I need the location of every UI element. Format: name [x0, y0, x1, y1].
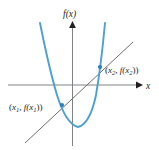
point-1-label: (x1, f(x1)): [9, 102, 43, 113]
point-1-close-parens: )): [37, 102, 43, 112]
x-axis: [8, 82, 143, 89]
point-2-f-var: f(x: [120, 65, 130, 75]
intersection-point-2: [98, 65, 102, 69]
y-axis: [69, 21, 76, 146]
function-graph-figure: f(x) x (x1, f(x1)) (x2, f(x2)): [0, 0, 159, 150]
y-axis-arrowhead: [69, 21, 76, 28]
point-2-close-parens: )): [133, 65, 139, 75]
point-1-f-var: f(x: [24, 102, 34, 112]
secant-line: [25, 42, 133, 143]
x-axis-label-text: x: [145, 81, 151, 91]
y-axis-label: f(x): [63, 9, 76, 20]
intersection-point-1: [60, 103, 64, 107]
x-axis-label: x: [145, 81, 151, 91]
graph-canvas: f(x) x (x1, f(x1)) (x2, f(x2)): [0, 0, 159, 150]
y-axis-label-text: f(x): [63, 9, 76, 20]
point-2-label: (x2, f(x2)): [105, 65, 139, 76]
x-axis-arrowhead: [136, 82, 143, 89]
